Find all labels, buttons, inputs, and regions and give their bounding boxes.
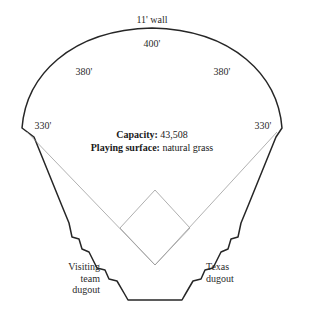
playing-surface-label: Playing surface: [91, 142, 160, 153]
playing-surface-line: Playing surface: natural grass [52, 141, 252, 154]
right-center-distance-label: 380' [194, 66, 250, 78]
center-field-distance-label: 400' [103, 38, 201, 50]
texas-dugout-label: Texas dugout [206, 261, 278, 284]
capacity-label: Capacity: [116, 129, 158, 140]
playing-surface-value: natural grass [162, 142, 213, 153]
capacity-value: 43,508 [160, 129, 188, 140]
stadium-info-block: Capacity: 43,508 Playing surface: natura… [52, 128, 252, 154]
visiting-team-dugout-label: Visiting team dugout [34, 261, 100, 296]
wall-height-label: 11' wall [103, 14, 201, 26]
left-center-distance-label: 380' [56, 66, 112, 78]
capacity-line: Capacity: 43,508 [52, 128, 252, 141]
